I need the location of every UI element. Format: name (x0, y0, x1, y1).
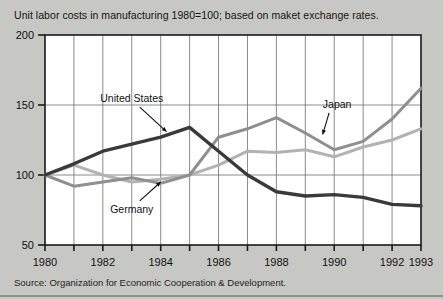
x-tick-label: 1993 (409, 256, 433, 268)
y-tick-label: 100 (16, 169, 34, 181)
x-tick-label: 1992 (380, 256, 404, 268)
x-tick-label: 1988 (264, 256, 288, 268)
x-tick-label: 1982 (91, 256, 115, 268)
annotation-label-united-states: United States (100, 92, 163, 104)
annotation-label-germany: Germany (110, 203, 154, 215)
y-tick-label: 50 (22, 239, 34, 251)
x-tick-label: 1990 (322, 256, 346, 268)
line-chart: 5010015020019801982198419861988199019921… (0, 0, 443, 299)
x-tick-label: 1980 (33, 256, 57, 268)
y-tick-label: 200 (16, 29, 34, 41)
chart-container: 5010015020019801982198419861988199019921… (0, 0, 443, 299)
x-tick-label: 1986 (206, 256, 230, 268)
y-tick-label: 150 (16, 99, 34, 111)
bottom-divider (0, 295, 443, 297)
x-tick-label: 1984 (148, 256, 172, 268)
source-note: Source: Organization for Economic Cooper… (14, 277, 286, 288)
annotation-label-japan: Japan (323, 98, 352, 110)
chart-page: Unit labor costs in manufacturing 1980=1… (0, 0, 443, 299)
